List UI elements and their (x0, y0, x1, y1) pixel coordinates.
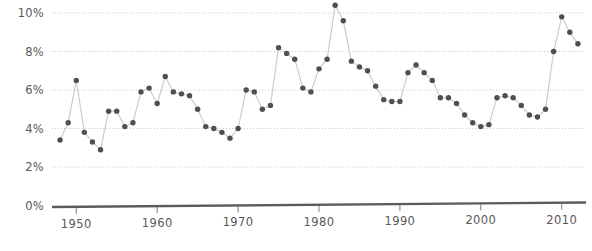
data-point[interactable] (57, 137, 62, 142)
data-point[interactable] (187, 93, 192, 98)
data-point[interactable] (341, 18, 346, 23)
data-point[interactable] (114, 108, 119, 113)
data-point[interactable] (438, 95, 443, 100)
data-point[interactable] (486, 122, 491, 127)
series-marker-group (57, 3, 580, 153)
data-point[interactable] (502, 93, 507, 98)
x-tick-label-1990: 1990 (384, 214, 415, 228)
series-line-group (60, 5, 578, 149)
x-tick-label-1960: 1960 (142, 216, 173, 230)
x-axis-tick-labels: 1950196019701980199020002010 (61, 213, 577, 231)
data-point[interactable] (284, 51, 289, 56)
data-point[interactable] (559, 14, 564, 19)
data-point[interactable] (243, 87, 248, 92)
data-point[interactable] (179, 91, 184, 96)
data-point[interactable] (106, 108, 111, 113)
data-point[interactable] (154, 101, 159, 106)
data-point[interactable] (308, 89, 313, 94)
x-tick-label-1980: 1980 (304, 215, 335, 229)
data-point[interactable] (381, 97, 386, 102)
data-point[interactable] (219, 130, 224, 135)
unemployment-rate-line-chart: 0%2%4%6%8%10% 19501960197019801990200020… (0, 0, 592, 251)
data-point[interactable] (82, 130, 87, 135)
data-point[interactable] (543, 107, 548, 112)
y-tick-label-0%: 0% (25, 199, 44, 213)
data-point[interactable] (535, 114, 540, 119)
data-point[interactable] (195, 107, 200, 112)
x-tick-label-2000: 2000 (465, 213, 496, 227)
data-point[interactable] (389, 99, 394, 104)
data-point[interactable] (138, 89, 143, 94)
x-tick-label-1950: 1950 (61, 217, 92, 231)
data-point[interactable] (252, 89, 257, 94)
series-line-0 (60, 5, 578, 149)
data-point[interactable] (332, 3, 337, 8)
y-axis-tick-labels: 0%2%4%6%8%10% (18, 6, 44, 213)
data-point[interactable] (268, 103, 273, 108)
data-point[interactable] (478, 124, 483, 129)
x-axis (52, 203, 586, 214)
data-point[interactable] (349, 58, 354, 63)
data-point[interactable] (316, 66, 321, 71)
data-point[interactable] (65, 120, 70, 125)
data-point[interactable] (575, 41, 580, 46)
data-point[interactable] (397, 99, 402, 104)
data-point[interactable] (413, 62, 418, 67)
data-point[interactable] (146, 85, 151, 90)
y-tick-label-8%: 8% (25, 45, 44, 59)
y-tick-label-4%: 4% (25, 122, 44, 136)
y-tick-label-10%: 10% (18, 6, 44, 20)
data-point[interactable] (300, 85, 305, 90)
chart-canvas: 0%2%4%6%8%10% 19501960197019801990200020… (0, 0, 592, 251)
data-point[interactable] (163, 74, 168, 79)
data-point[interactable] (276, 45, 281, 50)
data-point[interactable] (235, 126, 240, 131)
data-point[interactable] (454, 101, 459, 106)
data-point[interactable] (510, 95, 515, 100)
data-point[interactable] (527, 112, 532, 117)
data-point[interactable] (324, 57, 329, 62)
data-point[interactable] (430, 78, 435, 83)
data-point[interactable] (203, 124, 208, 129)
data-point[interactable] (74, 78, 79, 83)
data-point[interactable] (260, 107, 265, 112)
y-tick-label-6%: 6% (25, 83, 44, 97)
data-point[interactable] (122, 124, 127, 129)
data-point[interactable] (90, 139, 95, 144)
data-point[interactable] (519, 103, 524, 108)
x-tick-label-2010: 2010 (546, 213, 577, 227)
gridlines-group (52, 13, 586, 167)
x-tick-label-1970: 1970 (223, 215, 254, 229)
data-point[interactable] (567, 30, 572, 35)
y-tick-label-2%: 2% (25, 160, 44, 174)
data-point[interactable] (227, 135, 232, 140)
data-point[interactable] (357, 64, 362, 69)
data-point[interactable] (365, 68, 370, 73)
data-point[interactable] (211, 126, 216, 131)
data-point[interactable] (494, 95, 499, 100)
data-point[interactable] (470, 120, 475, 125)
data-point[interactable] (98, 147, 103, 152)
data-point[interactable] (130, 120, 135, 125)
data-point[interactable] (551, 49, 556, 54)
data-point[interactable] (373, 83, 378, 88)
data-point[interactable] (405, 70, 410, 75)
data-point[interactable] (421, 70, 426, 75)
data-point[interactable] (446, 95, 451, 100)
data-point[interactable] (292, 57, 297, 62)
data-point[interactable] (171, 89, 176, 94)
data-point[interactable] (462, 112, 467, 117)
